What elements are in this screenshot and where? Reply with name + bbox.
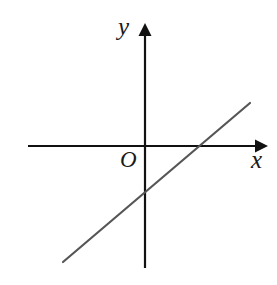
figure-container: i y x O [0,0,277,285]
origin-label: O [120,147,137,173]
figure-background [0,0,277,285]
x-axis-label: x [251,146,262,174]
coordinate-plane-svg [0,0,277,285]
y-axis-label: y [118,13,129,41]
